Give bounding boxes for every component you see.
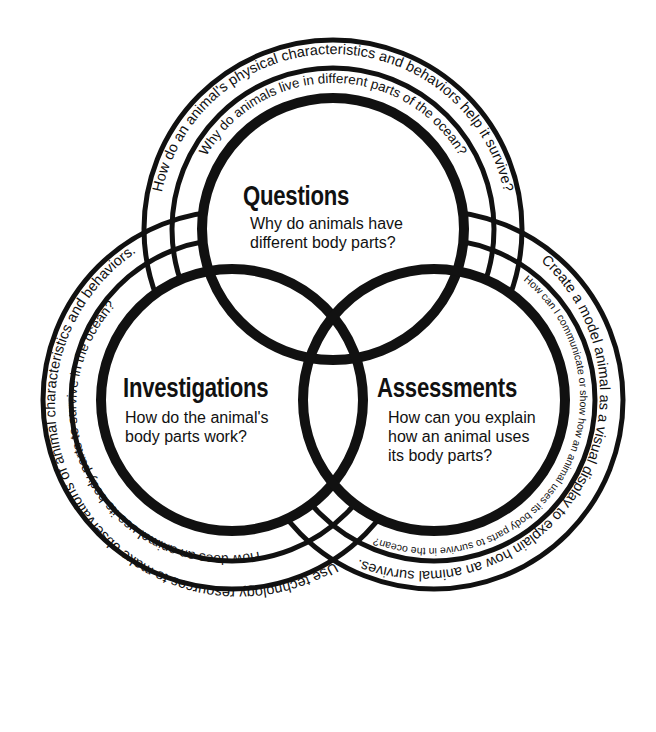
assessments-title: Assessments [377,373,517,404]
investigations-description: How do the animal's body parts work? [125,408,269,446]
venn-diagram: How do an animal's physical characterist… [0,0,656,732]
assessments-description: How can you explain how an animal uses i… [388,408,536,465]
questions-description: Why do animals have different body parts… [250,214,403,252]
questions-title: Questions [243,181,349,212]
investigations-title: Investigations [123,373,268,404]
